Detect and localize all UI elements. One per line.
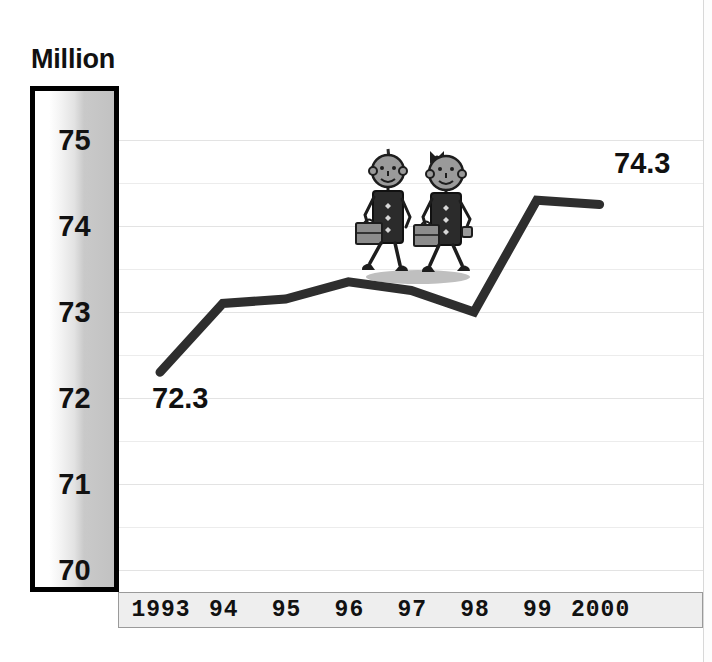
x-tick-95: 95	[272, 597, 302, 623]
x-tick-94: 94	[209, 597, 239, 623]
walking-people-illustration	[348, 143, 488, 285]
page-edge-artifact	[703, 0, 712, 662]
y-tick-72: 72	[30, 382, 119, 415]
illustration-shadow	[366, 270, 470, 284]
y-tick-70: 70	[30, 554, 119, 587]
chart-page: Million 75 74 73 72 71 70	[0, 0, 712, 662]
x-tick-99: 99	[523, 597, 553, 623]
y-tick-74: 74	[30, 210, 119, 243]
data-label-end: 74.3	[614, 147, 670, 180]
y-axis-title: Million	[31, 44, 115, 75]
x-axis-strip: 19939495969798992000	[118, 592, 703, 628]
x-tick-98: 98	[460, 597, 490, 623]
figure-man	[356, 149, 410, 271]
figure-woman	[414, 151, 472, 272]
x-tick-1993: 1993	[131, 597, 190, 623]
y-tick-73: 73	[30, 296, 119, 329]
x-tick-96: 96	[335, 597, 365, 623]
y-tick-71: 71	[30, 468, 119, 501]
data-label-start: 72.3	[152, 382, 208, 415]
x-tick-97: 97	[397, 597, 427, 623]
y-tick-75: 75	[30, 124, 119, 157]
y-axis-box	[30, 86, 119, 592]
x-tick-2000: 2000	[571, 597, 630, 623]
